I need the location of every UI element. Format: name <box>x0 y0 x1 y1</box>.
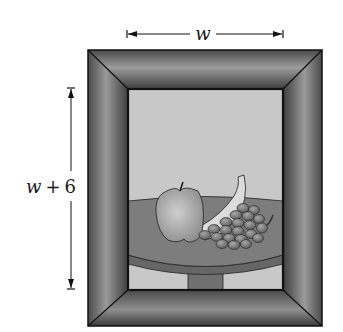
arrowhead-down-icon <box>68 279 74 288</box>
framed-picture-diagram: w w+6 <box>0 0 343 332</box>
height-label: w+6 <box>26 176 76 197</box>
width-label: w <box>195 23 211 44</box>
height-dimension: w+6 <box>26 88 76 289</box>
arrowhead-left-icon <box>128 31 137 37</box>
arrowhead-up-icon <box>68 89 74 98</box>
width-dimension: w <box>127 23 283 44</box>
arrowhead-right-icon <box>273 31 282 37</box>
still-life-picture <box>128 89 283 290</box>
